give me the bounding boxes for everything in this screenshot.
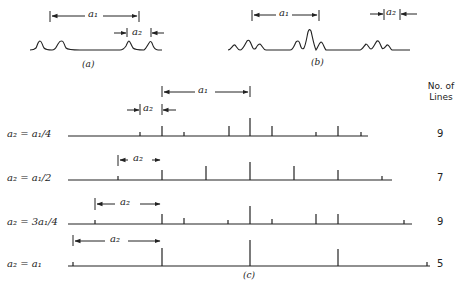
row4-a2-label: a₂ [110, 233, 120, 244]
panel-b-a1-label: a₁ [279, 7, 289, 18]
row2-formula: a₂ = a₁/2 [7, 172, 51, 183]
panel-b-caption: (b) [311, 57, 324, 67]
panel-c-caption: (c) [243, 270, 255, 280]
row3-line-count: 9 [437, 216, 443, 227]
row3-a2-label: a₂ [120, 196, 130, 207]
row-2-spectrum [68, 162, 392, 180]
panel-c-a2-label: a₂ [143, 102, 153, 113]
row-4-spectrum [68, 240, 430, 266]
row1-line-count: 9 [437, 128, 443, 139]
header-line2: Lines [424, 92, 457, 103]
grating-diagram [0, 0, 457, 288]
row4-line-count: 5 [437, 258, 443, 269]
row4-formula: a₂ = a₁ [7, 258, 42, 269]
row1-formula: a₂ = a₁/4 [7, 128, 51, 139]
row3-formula: a₂ = 3a₁/4 [7, 216, 58, 227]
panel-c-a1-label: a₁ [198, 84, 208, 95]
panel-a-caption: (a) [82, 59, 94, 69]
row-1-spectrum [68, 118, 368, 136]
row-3-spectrum [68, 206, 412, 224]
panel-a-a1-label: a₁ [88, 8, 98, 19]
row2-line-count: 7 [437, 172, 443, 183]
panel-a-a2-label: a₂ [132, 26, 142, 37]
panel-b-profile [228, 30, 410, 50]
row2-a2-label: a₂ [133, 152, 143, 163]
panel-a-profile [30, 41, 162, 50]
spectral-line-rows [68, 118, 430, 266]
header-line1: No. of [424, 81, 457, 92]
lines-count-header: No. of Lines [424, 81, 457, 103]
panel-b-a2-label: a₂ [386, 6, 396, 17]
